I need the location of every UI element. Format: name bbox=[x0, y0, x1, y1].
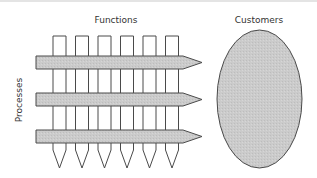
process-arrow bbox=[36, 56, 202, 69]
customers-ellipse bbox=[217, 30, 302, 168]
functions-processes-diagram: Functions Customers Processes bbox=[0, 0, 317, 178]
process-arrows bbox=[36, 56, 202, 143]
process-arrow bbox=[36, 93, 202, 106]
processes-label: Processes bbox=[14, 78, 24, 123]
customers-label: Customers bbox=[235, 15, 284, 25]
functions-label: Functions bbox=[95, 15, 138, 25]
process-arrow bbox=[36, 130, 202, 143]
